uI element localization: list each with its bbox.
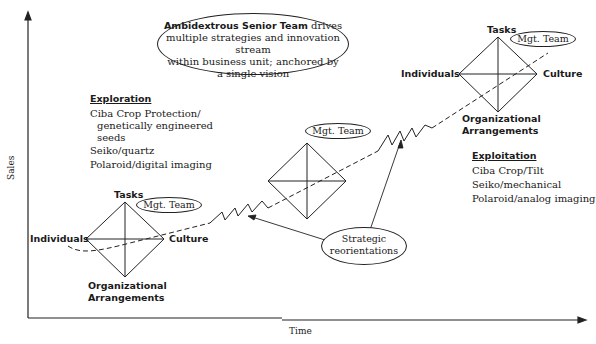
exploration-item: Seiko/quartz (90, 145, 154, 157)
diamond-3-left-label: Individuals (401, 68, 460, 80)
x-axis-arrow-icon (578, 317, 586, 323)
senior-team-bold: Ambidextrous Senior Team (164, 20, 308, 31)
diamond-3-top-label: Tasks (487, 24, 516, 36)
arrow-head-1-icon (248, 215, 256, 220)
exploitation-item: Polaroid/analog imaging (472, 193, 596, 205)
diamond-1-top-label: Tasks (114, 189, 143, 201)
arrow-line-1 (252, 217, 325, 240)
diamond-3-mgt-team: Mgt. Team (510, 31, 576, 47)
y-axis-label: Sales (6, 156, 16, 180)
zigzag-2 (378, 125, 432, 151)
diamond-1-right-label: Culture (169, 233, 208, 245)
exploration-item: genetically engineered (97, 120, 213, 132)
y-axis-arrow-icon (25, 12, 31, 20)
exploitation-item: Seiko/mechanical (472, 179, 561, 191)
diamond-3-right-label: Culture (543, 68, 582, 80)
diamond-3-bottom-label: Organizational Arrangements (462, 113, 536, 137)
x-axis-label: Time (289, 326, 312, 336)
arrow-head-2-icon (398, 140, 403, 148)
exploration-item: Polaroid/digital imaging (90, 159, 212, 171)
diamond-1-left-label: Individuals (30, 233, 89, 245)
exploitation-heading: Exploitation (472, 150, 537, 162)
diamond-2-mgt-team: Mgt. Team (305, 123, 371, 139)
diamond-1-bottom-label: Organizational Arrangements (88, 280, 162, 304)
diamond-1-mgt-team: Mgt. Team (136, 197, 202, 213)
arrow-line-2 (370, 143, 400, 230)
exploitation-item: Ciba Crop/Tilt (472, 165, 544, 177)
trajectory-2 (268, 151, 378, 208)
strategic-reorientations-text: Strategic reorientations (321, 233, 407, 257)
diamond-2 (268, 143, 346, 219)
diamond-1 (86, 202, 164, 277)
exploration-item: Ciba Crop Protection/ (90, 108, 201, 120)
diamond-3 (459, 37, 537, 112)
exploration-heading: Exploration (90, 93, 151, 105)
senior-team-text: Ambidextrous Senior Team drives multiple… (160, 20, 346, 80)
exploration-item: seeds (97, 132, 126, 144)
